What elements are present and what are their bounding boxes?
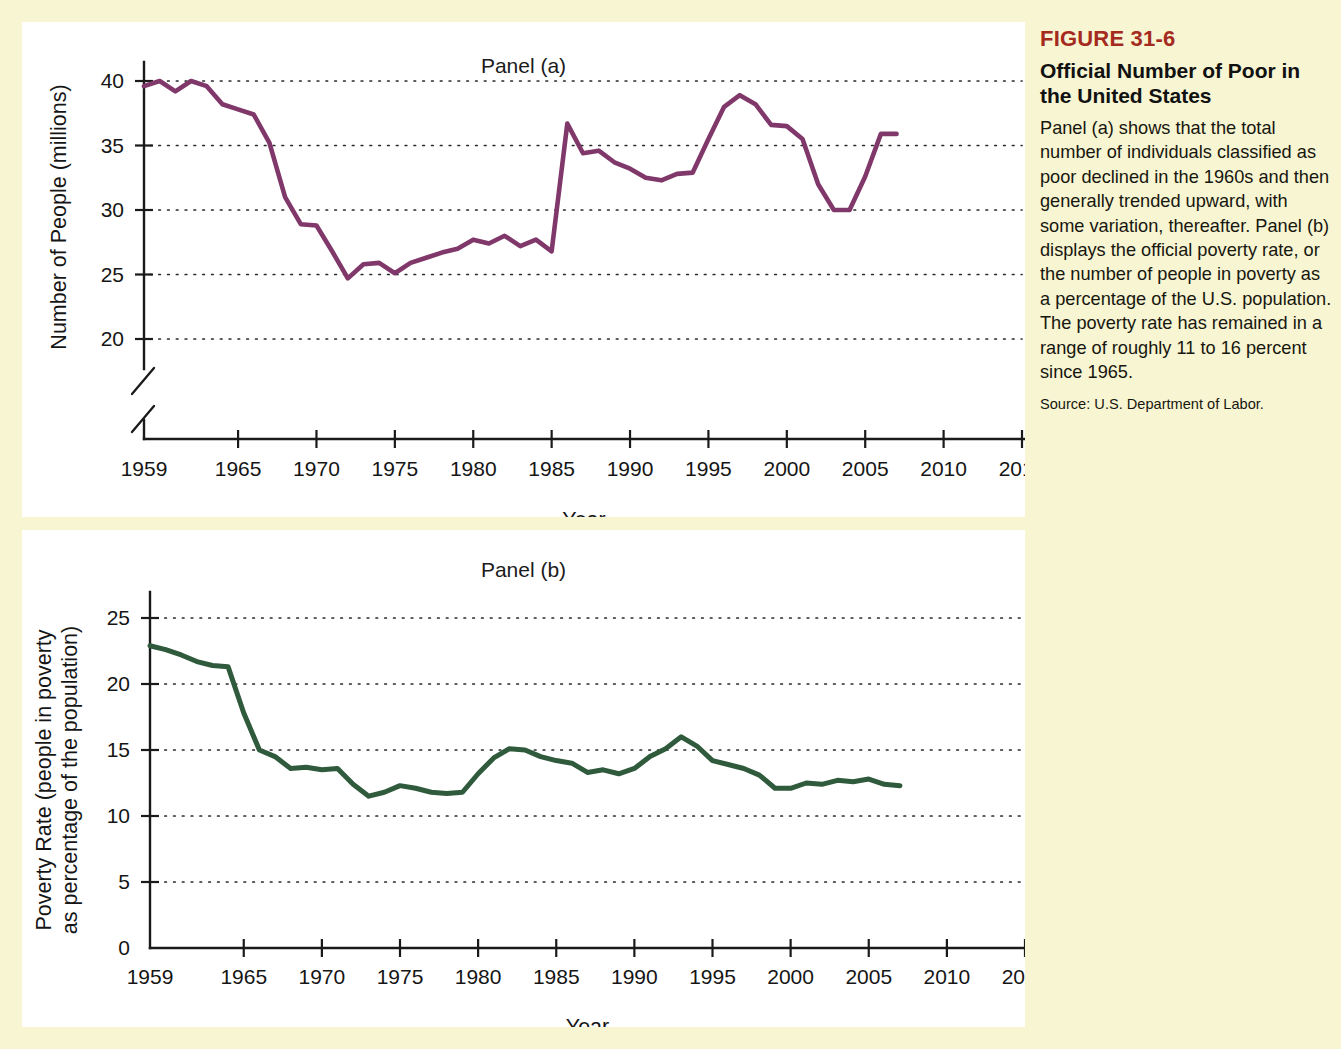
figure-title: Official Number of Poor in the United St… (1040, 58, 1332, 108)
svg-text:1995: 1995 (689, 965, 736, 988)
svg-text:1959: 1959 (121, 457, 168, 480)
svg-text:Year: Year (566, 1015, 609, 1027)
svg-text:1970: 1970 (293, 457, 340, 480)
svg-text:20: 20 (107, 672, 130, 695)
svg-text:1995: 1995 (685, 457, 732, 480)
panel-a-chart: 2025303540195919651970197519801985199019… (22, 22, 1025, 517)
figure-root: Panel (a) 202530354019591965197019751980… (0, 0, 1341, 1049)
svg-text:2015: 2015 (1002, 965, 1025, 988)
svg-text:Number of People (millions): Number of People (millions) (47, 84, 71, 349)
svg-text:35: 35 (101, 134, 124, 157)
svg-text:1959: 1959 (127, 965, 174, 988)
svg-text:2015: 2015 (999, 457, 1025, 480)
svg-text:1980: 1980 (455, 965, 502, 988)
svg-text:2005: 2005 (842, 457, 889, 480)
svg-text:25: 25 (107, 606, 130, 629)
svg-text:1975: 1975 (371, 457, 418, 480)
svg-text:10: 10 (107, 804, 130, 827)
svg-text:2010: 2010 (924, 965, 971, 988)
svg-text:15: 15 (107, 738, 130, 761)
svg-text:40: 40 (101, 69, 124, 92)
svg-text:5: 5 (118, 870, 130, 893)
svg-text:1990: 1990 (607, 457, 654, 480)
svg-text:20: 20 (101, 327, 124, 350)
svg-text:1990: 1990 (611, 965, 658, 988)
svg-text:2005: 2005 (845, 965, 892, 988)
svg-text:0: 0 (118, 936, 130, 959)
figure-caption: FIGURE 31-6 Official Number of Poor in t… (1040, 26, 1332, 412)
svg-text:1965: 1965 (215, 457, 262, 480)
svg-text:1985: 1985 (533, 965, 580, 988)
svg-text:1970: 1970 (299, 965, 346, 988)
figure-number: FIGURE 31-6 (1040, 26, 1332, 52)
svg-text:2000: 2000 (763, 457, 810, 480)
svg-text:25: 25 (101, 263, 124, 286)
svg-text:1965: 1965 (220, 965, 267, 988)
panel-b-chart: 0510152025195919651970197519801985199019… (22, 530, 1025, 1027)
svg-text:1985: 1985 (528, 457, 575, 480)
figure-source: Source: U.S. Department of Labor. (1040, 396, 1332, 412)
svg-text:Poverty Rate (people in povert: Poverty Rate (people in povertyas percen… (32, 626, 82, 934)
svg-text:30: 30 (101, 198, 124, 221)
figure-description: Panel (a) shows that the total number of… (1040, 116, 1332, 384)
svg-text:1980: 1980 (450, 457, 497, 480)
panel-a-container: Panel (a) 202530354019591965197019751980… (22, 22, 1025, 517)
svg-text:2000: 2000 (767, 965, 814, 988)
svg-text:Year: Year (562, 508, 605, 517)
svg-text:1975: 1975 (377, 965, 424, 988)
svg-text:2010: 2010 (920, 457, 967, 480)
panel-b-container: Panel (b) 051015202519591965197019751980… (22, 530, 1025, 1027)
